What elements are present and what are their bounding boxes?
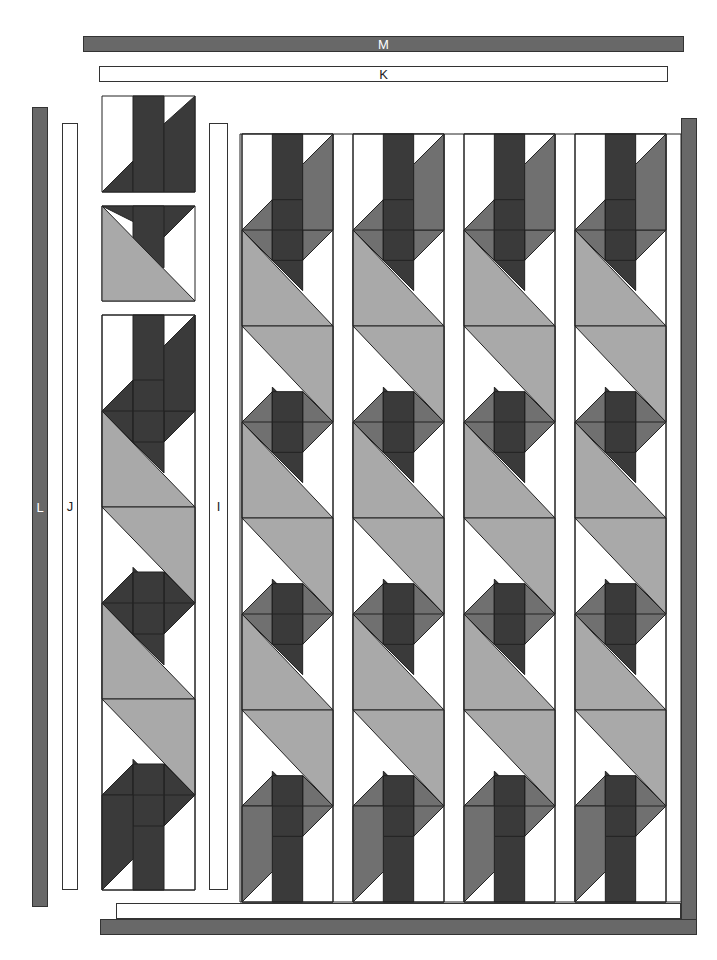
strip-label-j: J <box>67 499 74 514</box>
right-border-strip <box>681 118 697 921</box>
strip-label-i: I <box>217 499 221 514</box>
strip-label-m: M <box>378 37 389 52</box>
border-strip-j: J <box>62 123 78 890</box>
border-strip-k: K <box>99 66 668 82</box>
bottom-border-strip <box>100 919 697 935</box>
border-strip-l: L <box>32 107 48 907</box>
bottom-inner-strip <box>116 903 681 919</box>
quilt-pattern-svg <box>0 0 717 960</box>
strip-label-k: K <box>379 67 388 82</box>
strip-label-l: L <box>36 500 43 515</box>
border-strip-m: M <box>83 36 684 52</box>
sashing-strip-i: I <box>209 123 228 890</box>
